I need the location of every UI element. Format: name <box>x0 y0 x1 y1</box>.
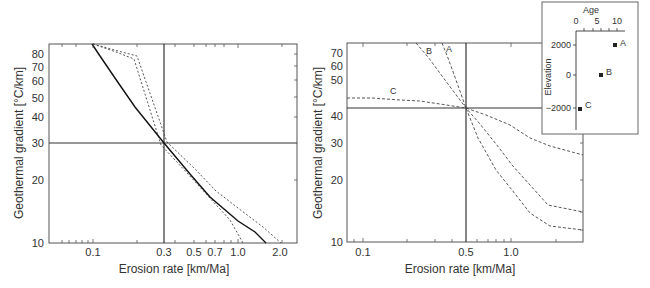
right-y-axis-title: Geothermal gradient [°C/km] <box>311 67 325 219</box>
left-y-tick-label: 40 <box>32 111 44 123</box>
right-x-tick-label: 0.1 <box>355 246 370 258</box>
left-x-tick-label: 0.1 <box>85 246 100 258</box>
right-x-axis-title: Erosion rate [km/Ma] <box>405 262 516 276</box>
left-x-axis-title: Erosion rate [km/Ma] <box>119 262 230 276</box>
left-y-tick-label: 70 <box>32 61 44 73</box>
right-y-tick-label: 50 <box>331 74 343 86</box>
figure: 80 70 60 50 40 30 20 10 0.1 0.3 0.5 0.7 … <box>0 0 650 288</box>
inset-frame <box>542 2 638 134</box>
left-y-tick-label: 20 <box>32 174 44 186</box>
inset-point-a <box>613 43 617 47</box>
right-y-ticks: 70 60 50 40 30 20 10 <box>331 47 343 248</box>
left-y-ticks: 80 70 60 50 40 30 20 10 <box>32 48 44 249</box>
left-y-tick-label: 80 <box>32 48 44 60</box>
right-y-tick-label: 60 <box>331 60 343 72</box>
left-x-tick-label: 2.0 <box>272 246 287 258</box>
curve-label-b: B <box>426 46 432 56</box>
inset-y-axis-title: Elevation <box>543 58 553 95</box>
curve-label-c: C <box>390 86 397 96</box>
right-y-tick-label: 10 <box>331 236 343 248</box>
left-plot: 80 70 60 50 40 30 20 10 0.1 0.3 0.5 0.7 … <box>12 44 297 276</box>
left-x-tick-label: 0.5 <box>186 246 201 258</box>
right-x-ticks: 0.1 0.5 1.0 <box>355 246 518 258</box>
inset-point-label-b: B <box>606 67 612 77</box>
inset-point-b <box>599 73 603 77</box>
inset-plot: Age 0 5 10 2000 0 −2000 Elevation A B C <box>542 2 638 134</box>
right-y-tick-label: 30 <box>331 137 343 149</box>
right-y-tick-label: 70 <box>331 47 343 59</box>
inset-point-label-c: C <box>585 100 592 110</box>
inset-x-tick-label: 5 <box>594 16 599 26</box>
left-y-axis-title: Geothermal gradient [°C/km] <box>12 67 26 219</box>
left-y-tick-label: 30 <box>32 137 44 149</box>
curve-label-a: A <box>446 44 452 54</box>
inset-y-tick-label: 0 <box>566 70 571 80</box>
inset-point-label-a: A <box>620 38 626 48</box>
right-y-tick-label: 20 <box>331 174 343 186</box>
left-y-tick-label: 10 <box>32 237 44 249</box>
inset-x-tick-label: 0 <box>573 16 578 26</box>
inset-x-axis-title: Age <box>583 5 599 15</box>
right-y-tick-label: 40 <box>331 110 343 122</box>
left-x-ticks: 0.1 0.3 0.5 0.7 1.0 2.0 <box>85 246 287 258</box>
right-x-tick-label: 1.0 <box>503 246 518 258</box>
left-y-tick-label: 50 <box>32 92 44 104</box>
left-y-tick-label: 60 <box>32 75 44 87</box>
inset-x-tick-label: 10 <box>612 16 622 26</box>
left-x-tick-label: 1.0 <box>230 246 245 258</box>
inset-point-c <box>578 107 582 111</box>
left-x-tick-label: 0.3 <box>156 246 171 258</box>
left-x-tick-label: 0.7 <box>207 246 222 258</box>
right-x-tick-label: 0.5 <box>458 246 473 258</box>
inset-y-tick-label: 2000 <box>551 40 571 50</box>
inset-y-tick-label: −2000 <box>546 103 571 113</box>
